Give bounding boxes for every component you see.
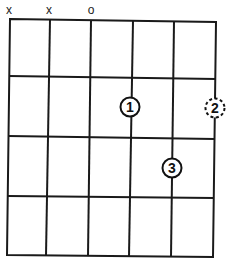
string-marker-3: o [88,3,95,17]
chord-diagram: x x o 1 2 3 [0,0,226,264]
svg-text:3: 3 [168,160,176,176]
finger-dot-1: 1 [121,98,140,117]
finger-dot-2-optional: 2 [206,99,225,118]
string-marker-2: x [46,3,52,17]
fret-line-2 [8,136,215,139]
svg-text:2: 2 [211,100,219,116]
fret-line-1 [9,76,216,79]
finger-dot-3: 3 [163,159,182,178]
svg-text:1: 1 [126,99,134,115]
fretboard-grid [7,19,216,257]
fret-line-3 [8,196,214,198]
string-marker-1: x [6,3,12,17]
